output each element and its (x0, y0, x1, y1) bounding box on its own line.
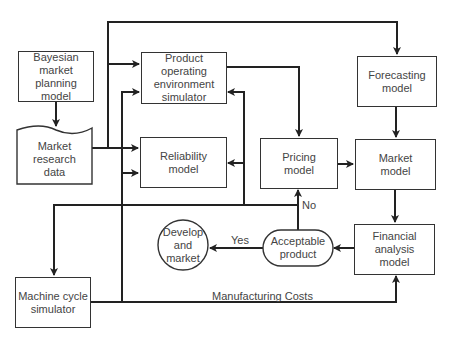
yes-label: Yes (231, 234, 249, 246)
node-label: Machine cycle simulator (18, 290, 88, 316)
node-label: Develop and market (163, 226, 203, 265)
no-label: No (302, 199, 316, 211)
acceptable-product-decision: Acceptable product (263, 230, 333, 266)
manufacturing-costs-label: Manufacturing Costs (212, 290, 313, 302)
node-label: Bayesian market planning model (19, 51, 93, 103)
node-label: Financial analysis model (372, 230, 416, 269)
node-label: Pricing model (282, 151, 316, 177)
financial-analysis-model-node: Financial analysis model (354, 224, 435, 275)
node-label: Product operating environment simulator (142, 52, 226, 104)
product-operating-environment-simulator-node: Product operating environment simulator (141, 52, 227, 104)
reliability-model-node: Reliability model (140, 137, 227, 188)
node-label: Market research data (33, 140, 76, 179)
node-label: Forecasting model (368, 69, 425, 95)
market-model-node: Market model (355, 139, 436, 190)
node-label: Acceptable product (271, 235, 325, 261)
node-label: Market model (379, 152, 413, 178)
machine-cycle-simulator-node: Machine cycle simulator (15, 277, 91, 328)
develop-and-market-terminal: Develop and market (158, 220, 208, 270)
node-label: Reliability model (160, 150, 207, 176)
pricing-model-node: Pricing model (260, 138, 338, 189)
bayesian-market-planning-node: Bayesian market planning model (18, 51, 94, 102)
market-research-data-node: Market research data (17, 134, 92, 184)
forecasting-model-node: Forecasting model (357, 56, 437, 107)
